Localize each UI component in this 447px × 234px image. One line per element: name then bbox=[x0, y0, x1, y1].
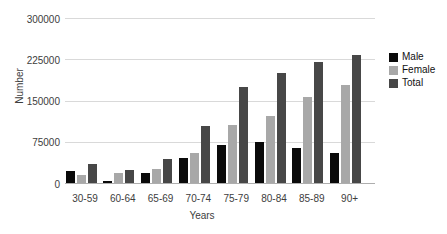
x-tick-label-85-89: 85-89 bbox=[293, 193, 331, 205]
legend-label-male: Male bbox=[402, 52, 424, 62]
bar-group-85-89 bbox=[292, 62, 323, 183]
legend: MaleFemaleTotal bbox=[389, 52, 435, 91]
bar-female-60-64 bbox=[114, 173, 123, 183]
gridline-300000 bbox=[65, 18, 375, 19]
bar-female-65-69 bbox=[152, 169, 161, 183]
bar-total-70-74 bbox=[201, 126, 210, 183]
bar-total-65-69 bbox=[163, 159, 172, 183]
bar-female-30-59 bbox=[77, 175, 86, 183]
bar-total-80-84 bbox=[277, 73, 286, 183]
x-tick-label-65-69: 65-69 bbox=[142, 193, 180, 205]
bar-male-65-69 bbox=[141, 173, 150, 183]
bar-group-90+ bbox=[330, 55, 361, 183]
y-tick-label-75000: 75000 bbox=[0, 137, 60, 148]
bar-male-85-89 bbox=[292, 148, 301, 183]
bar-group-75-79 bbox=[217, 87, 248, 183]
bar-female-70-74 bbox=[190, 153, 199, 183]
bar-male-70-74 bbox=[179, 158, 188, 183]
x-tick-label-80-84: 80-84 bbox=[255, 193, 293, 205]
x-axis-title: Years bbox=[65, 210, 339, 222]
bar-group-80-84 bbox=[255, 73, 286, 183]
bar-male-90+ bbox=[330, 153, 339, 183]
bar-group-30-59 bbox=[66, 164, 97, 183]
bar-male-80-84 bbox=[255, 142, 264, 183]
legend-swatch-male bbox=[389, 53, 398, 62]
legend-item-male: Male bbox=[389, 52, 435, 62]
x-axis-line bbox=[65, 183, 375, 184]
bar-male-75-79 bbox=[217, 145, 226, 183]
bar-male-30-59 bbox=[66, 171, 75, 183]
bar-female-85-89 bbox=[303, 97, 312, 183]
bar-chart-figure: Number 075000150000225000300000 30-5960-… bbox=[0, 0, 447, 234]
bar-group-70-74 bbox=[179, 126, 210, 183]
x-tick-label-90+: 90+ bbox=[331, 193, 369, 205]
bar-total-75-79 bbox=[239, 87, 248, 183]
bar-female-90+ bbox=[341, 85, 350, 183]
x-tick-label-60-64: 60-64 bbox=[104, 193, 142, 205]
y-tick-label-150000: 150000 bbox=[0, 96, 60, 107]
bar-group-65-69 bbox=[141, 159, 172, 183]
bar-female-75-79 bbox=[228, 125, 237, 183]
bar-total-60-64 bbox=[125, 170, 134, 183]
gridline-225000 bbox=[65, 59, 375, 60]
legend-label-total: Total bbox=[402, 78, 423, 88]
x-tick-label-70-74: 70-74 bbox=[179, 193, 217, 205]
y-tick-label-300000: 300000 bbox=[0, 14, 60, 25]
legend-swatch-female bbox=[389, 66, 398, 75]
legend-swatch-total bbox=[389, 79, 398, 88]
legend-item-female: Female bbox=[389, 65, 435, 75]
bar-total-30-59 bbox=[88, 164, 97, 183]
x-tick-label-75-79: 75-79 bbox=[217, 193, 255, 205]
bar-group-60-64 bbox=[103, 170, 134, 183]
plot-area bbox=[65, 19, 375, 184]
bar-total-85-89 bbox=[314, 62, 323, 183]
legend-label-female: Female bbox=[402, 65, 435, 75]
y-tick-label-225000: 225000 bbox=[0, 55, 60, 66]
y-tick-label-0: 0 bbox=[0, 179, 60, 190]
bar-total-90+ bbox=[352, 55, 361, 183]
x-tick-label-30-59: 30-59 bbox=[66, 193, 104, 205]
legend-item-total: Total bbox=[389, 78, 435, 88]
bar-female-80-84 bbox=[266, 116, 275, 183]
